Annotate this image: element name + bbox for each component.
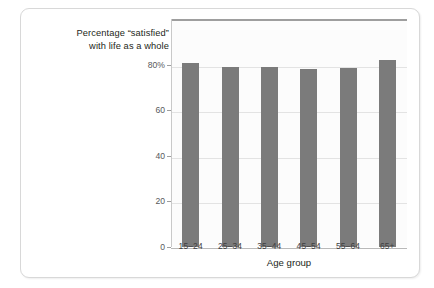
y-axis-label-80: 80%: [148, 60, 165, 70]
y-axis-label-0: 0: [160, 242, 165, 252]
gridline-60: [171, 112, 407, 113]
x-axis-label-45–54: 45–54: [297, 241, 321, 251]
gridline-40: [171, 158, 407, 159]
bar-25–34: [222, 67, 239, 247]
y-axis-tick-40: [167, 156, 171, 157]
bar-65+: [379, 60, 396, 247]
plot-area: [171, 19, 407, 247]
figure-card: Percentage “satisfied” with life as a wh…: [20, 8, 420, 278]
chart-title-line-2: with life as a whole: [29, 40, 169, 53]
y-axis-label-60: 60: [155, 105, 165, 115]
y-axis-label-40: 40: [155, 151, 165, 161]
y-axis-label-20: 20: [155, 196, 165, 206]
x-axis-label-65+: 65+: [380, 241, 395, 251]
chart-title-line-1: Percentage “satisfied”: [29, 27, 169, 40]
bar-35–44: [261, 67, 278, 247]
y-axis-line: 020406080%: [171, 19, 172, 247]
chart-title: Percentage “satisfied” with life as a wh…: [29, 27, 169, 52]
bar-45–54: [300, 69, 317, 247]
y-axis-tick-80: [167, 65, 171, 66]
bar-55–64: [340, 68, 357, 247]
bar-15–24: [182, 63, 199, 247]
y-axis-tick-60: [167, 110, 171, 111]
y-axis-tick-0: [167, 247, 171, 248]
gridline-80: [171, 67, 407, 68]
y-axis-tick-20: [167, 201, 171, 202]
x-axis-label-55–64: 55–64: [336, 241, 360, 251]
x-axis-label-35–44: 35–44: [257, 241, 281, 251]
x-axis-title: Age group: [171, 257, 407, 268]
gridline-20: [171, 203, 407, 204]
gridline-0: [171, 248, 407, 250]
x-axis-label-25–34: 25–34: [218, 241, 242, 251]
x-axis-label-15–24: 15–24: [179, 241, 203, 251]
